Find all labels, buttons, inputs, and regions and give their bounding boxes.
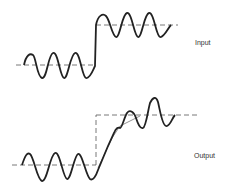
output-label: Output (194, 152, 215, 159)
output-waveform (22, 98, 175, 181)
input-reference-step (16, 25, 178, 65)
input-waveform (24, 13, 171, 78)
waveform-canvas (0, 0, 234, 188)
step-response-diagram: Input Output (0, 0, 234, 188)
output-trend-line (98, 116, 140, 168)
input-label: Input (195, 39, 211, 46)
